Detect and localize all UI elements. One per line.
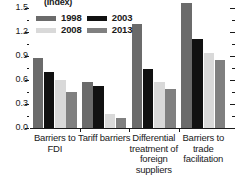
bar [44, 72, 55, 128]
group-separator-tick [179, 128, 180, 132]
legend-swatch-2013 [87, 28, 107, 33]
bar [116, 118, 127, 128]
y-tick-major-right [230, 56, 235, 57]
legend: 1998200320082013 [36, 13, 132, 35]
bar [93, 86, 104, 128]
bar [215, 60, 226, 128]
y-tick-minor [27, 20, 29, 21]
y-tick-minor-right [232, 116, 235, 117]
y-tick-label: 0.9 [4, 51, 28, 60]
axis-unit-title: (Index) [44, 0, 72, 7]
x-axis-baseline [30, 128, 230, 129]
bar [82, 82, 93, 128]
y-tick-major-right [230, 80, 235, 81]
y-tick-major-right [230, 128, 235, 129]
y-tick-minor-right [232, 44, 235, 45]
y-tick-minor-right [232, 20, 235, 21]
bar-chart: (Index) 0.00.30.60.91.21.5 1998200320082… [0, 0, 242, 181]
bar [143, 69, 154, 128]
bar [55, 80, 66, 128]
y-tick-major-right [230, 104, 235, 105]
y-tick-label: 0.6 [4, 75, 28, 84]
bar [204, 53, 215, 128]
y-tick-minor [27, 44, 29, 45]
bar [154, 82, 165, 128]
y-tick-major-right [230, 32, 235, 33]
y-tick-minor-right [232, 92, 235, 93]
y-tick-label: 0.0 [4, 123, 28, 132]
y-tick-major-right [230, 8, 235, 9]
y-tick-minor [27, 68, 29, 69]
legend-label-2008: 2008 [61, 25, 82, 35]
bar [66, 92, 77, 128]
legend-label-2003: 2003 [112, 13, 133, 23]
bar [192, 39, 203, 128]
y-tick-minor [27, 116, 29, 117]
bar [105, 114, 116, 128]
bar [132, 24, 143, 128]
y-tick-minor-right [232, 68, 235, 69]
y-tick-label: 1.5 [4, 3, 28, 12]
y-tick-label: 1.2 [4, 27, 28, 36]
bar [165, 89, 176, 128]
legend-label-2013: 2013 [112, 25, 133, 35]
y-tick-minor [27, 92, 29, 93]
bar [33, 58, 44, 128]
legend-swatch-1998 [36, 16, 56, 21]
legend-swatch-2008 [36, 28, 56, 33]
category-label: Barriers totradefacilitation [175, 133, 233, 165]
legend-swatch-2003 [87, 16, 107, 21]
bar [181, 3, 192, 128]
legend-label-1998: 1998 [61, 13, 82, 23]
y-tick-label: 0.3 [4, 99, 28, 108]
